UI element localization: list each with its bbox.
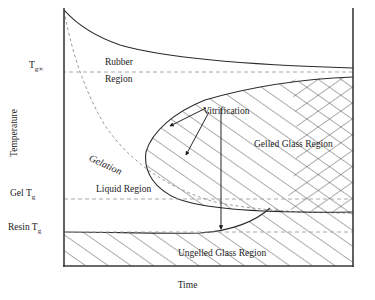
y-tick-resin-tg-subscript: g	[38, 227, 42, 235]
y-axis-label: Temperature	[9, 95, 19, 171]
region-label-liquid: Liquid Region	[96, 184, 151, 194]
region-label-rubber-line2: Region	[105, 74, 132, 84]
region-label-rubber: Rubber	[105, 57, 133, 67]
y-tick-resin-tg: Resin Tg	[8, 222, 41, 235]
y-tick-tg-infinity: Tg∞	[29, 60, 43, 73]
region-label-ungelled-glass: Ungelled Glass Region	[178, 248, 266, 258]
y-tick-gel-tg-subscript: g	[32, 193, 36, 201]
annotation-vitrification: Vitrification	[203, 106, 249, 116]
x-axis-label: Time	[0, 280, 375, 290]
y-tick-resin-tg-text: Resin T	[8, 222, 38, 232]
region-label-gelled-glass: Gelled Glass Region	[254, 139, 333, 149]
ttt-cure-diagram: Temperature Time Tg∞ Gel Tg Resin Tg Rub…	[0, 0, 375, 300]
y-tick-tg-infinity-subscript: g∞	[35, 65, 44, 73]
y-tick-gel-tg: Gel Tg	[10, 188, 35, 201]
y-tick-gel-tg-text: Gel T	[10, 188, 32, 198]
